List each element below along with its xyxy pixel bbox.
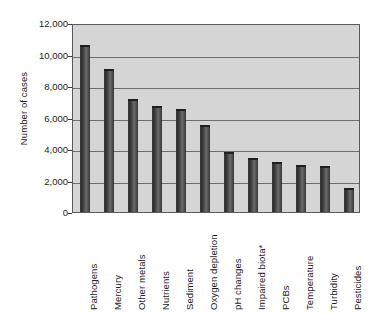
bar bbox=[320, 166, 330, 212]
y-axis-tick-label: 8,000 bbox=[24, 81, 68, 92]
plot-area bbox=[72, 24, 360, 213]
bar bbox=[152, 106, 162, 212]
bar bbox=[344, 188, 354, 212]
x-axis-category-label: Pesticides bbox=[352, 266, 363, 310]
y-axis-tick-mark bbox=[68, 150, 72, 151]
x-axis-category-label: Pathogens bbox=[88, 264, 99, 310]
x-axis-category-label: Oxygen depletion bbox=[208, 234, 219, 310]
x-axis-category-label: Sediment bbox=[184, 269, 195, 310]
y-axis-tick-label: 4,000 bbox=[24, 144, 68, 155]
y-axis-tick-mark bbox=[68, 119, 72, 120]
bar bbox=[200, 125, 210, 212]
bar bbox=[128, 99, 138, 212]
bar bbox=[272, 162, 282, 212]
bars-group bbox=[73, 25, 359, 212]
x-axis-category-label: PCBs bbox=[280, 285, 291, 310]
y-axis-tick-label: 12,000 bbox=[24, 18, 68, 29]
x-axis-category-label: Turbidity bbox=[328, 273, 339, 310]
x-axis-category-label: Other metals bbox=[136, 254, 147, 310]
y-axis-tick-label: 2,000 bbox=[24, 176, 68, 187]
y-axis-tick-mark bbox=[68, 182, 72, 183]
y-axis-tick-mark bbox=[68, 87, 72, 88]
x-axis-category-label: Nutrients bbox=[160, 271, 171, 310]
bar bbox=[104, 69, 114, 212]
x-axis-category-label: Temperature bbox=[304, 256, 315, 310]
y-axis-tick-label: 6,000 bbox=[24, 113, 68, 124]
y-axis-tick-label: 10,000 bbox=[24, 50, 68, 61]
y-axis-tick-labels: 12,00010,0008,0006,0004,0002,0000 bbox=[22, 0, 68, 314]
x-axis-category-label: Mercury bbox=[112, 275, 123, 310]
bar bbox=[296, 165, 306, 212]
y-axis-tick-mark bbox=[68, 213, 72, 214]
bar bbox=[80, 45, 90, 212]
y-axis-tick-mark bbox=[68, 56, 72, 57]
bar-chart: Number of cases 12,00010,0008,0006,0004,… bbox=[0, 0, 381, 314]
y-axis-tick-label: 0 bbox=[24, 207, 68, 218]
x-axis-category-label: Impaired biota* bbox=[256, 245, 267, 310]
x-axis-category-labels: PathogensMercuryOther metalsNutrientsSed… bbox=[72, 215, 360, 314]
bar bbox=[224, 152, 234, 212]
bar bbox=[248, 158, 258, 212]
bar bbox=[176, 109, 186, 212]
x-axis-category-label: pH changes bbox=[232, 258, 243, 310]
y-axis-tick-mark bbox=[68, 24, 72, 25]
